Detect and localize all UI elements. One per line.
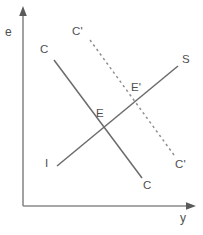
vertical-axis-arrowhead — [19, 6, 27, 16]
curve-cc-start-label: C — [40, 44, 49, 56]
x-axis-label: y — [180, 212, 186, 224]
horizontal-axis-arrowhead — [186, 202, 196, 210]
curve-cc-prime — [90, 40, 174, 155]
curve-is-start-label: I — [45, 158, 48, 170]
economics-diagram-figure: e y C C C' C' I S E E' — [0, 0, 203, 235]
equilibrium-point-label-e-prime: E' — [131, 82, 141, 94]
y-axis-label: e — [5, 26, 12, 38]
curve-is-end-label: S — [182, 54, 190, 66]
curve-is — [57, 66, 178, 166]
curve-cc-prime-start-label: C' — [72, 26, 83, 38]
equilibrium-point-label-e: E — [96, 108, 104, 120]
curve-cc-prime-end-label: C' — [175, 159, 186, 171]
curve-cc-end-label: C — [143, 180, 152, 192]
